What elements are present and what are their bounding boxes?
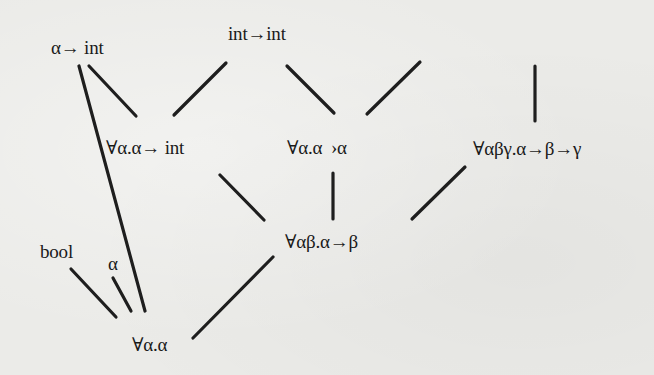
- node-forall-ab: ∀αβ.α→β: [285, 231, 358, 253]
- edge-forall-ab--forall-a-a: [193, 257, 273, 338]
- node-forall-a-a: ∀α.α: [132, 334, 167, 356]
- edge-int-to-int--forall-a-a-to-int: [174, 63, 226, 115]
- edge-forall-a-a-to-int--forall-ab: [220, 175, 264, 220]
- edge-int-to-int--forall-a-a-to-a: [287, 66, 334, 113]
- node-alpha-to-int: α→ int: [51, 37, 104, 59]
- node-forall-a-a-to-int: ∀α.α→ int: [106, 137, 184, 159]
- node-forall-abg: ∀αβγ.α→β→γ: [473, 138, 581, 160]
- node-bool: bool: [40, 241, 73, 263]
- edge-alpha-to-int--forall-a-a-to-int: [89, 66, 136, 116]
- edge-bool--forall-a-a: [71, 269, 116, 317]
- node-alpha: α: [108, 253, 118, 275]
- edge-forall-abg--forall-ab: [412, 167, 465, 219]
- edge-offscreen--forall-a-a-to-a: [367, 62, 420, 114]
- node-int-to-int: int→int: [228, 23, 286, 45]
- edge-alpha--forall-a-a: [113, 278, 131, 311]
- node-forall-a-a-to-a: ∀α.α ›α: [287, 137, 347, 159]
